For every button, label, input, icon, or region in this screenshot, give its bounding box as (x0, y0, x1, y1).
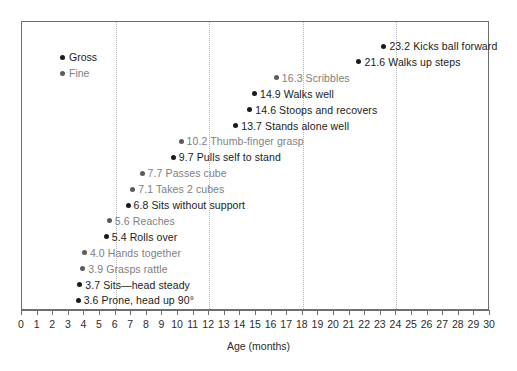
x-tick-0 (21, 310, 22, 315)
data-point-dot-icon (179, 139, 184, 144)
x-tick-5 (99, 310, 100, 315)
x-tick-26 (427, 310, 428, 315)
milestone-label: 5.6 Reaches (115, 214, 175, 228)
milestone-point: 4.0 Hands together (82, 246, 181, 260)
milestone-label: 3.6 Prone, head up 90° (84, 293, 194, 307)
milestone-label: 13.7 Stands alone well (241, 119, 349, 133)
milestone-label: 3.7 Sits—head steady (85, 278, 190, 292)
x-tick-label-29: 29 (468, 318, 480, 330)
milestone-point: 9.7 Pulls self to stand (171, 150, 281, 164)
milestone-point: 7.1 Takes 2 cubes (130, 182, 224, 196)
x-axis-title: Age (months) (0, 340, 517, 352)
milestone-label: 7.7 Passes cube (148, 166, 227, 180)
data-point-dot-icon (274, 75, 279, 80)
x-tick-label-30: 30 (483, 318, 495, 330)
legend-dot-icon (60, 55, 65, 60)
x-tick-label-4: 4 (80, 318, 86, 330)
milestone-label: 21.6 Walks up steps (364, 55, 460, 69)
milestone-label: 3.9 Grasps rattle (88, 262, 167, 276)
data-point-dot-icon (233, 123, 238, 128)
x-tick-20 (333, 310, 334, 315)
data-point-dot-icon (126, 203, 131, 208)
data-point-dot-icon (76, 298, 81, 303)
data-point-dot-icon (356, 59, 361, 64)
milestone-point: 14.6 Stoops and recovers (247, 103, 377, 117)
x-tick-8 (146, 310, 147, 315)
x-tick-30 (489, 310, 490, 315)
data-point-dot-icon (247, 107, 252, 112)
x-axis: 0123456789101112131415161718192021222324… (21, 310, 489, 311)
data-point-dot-icon (82, 250, 87, 255)
milestone-label: 7.1 Takes 2 cubes (138, 182, 224, 196)
data-point-dot-icon (130, 187, 135, 192)
milestone-label: 5.4 Rolls over (112, 230, 178, 244)
milestone-point: 6.8 Sits without support (126, 198, 246, 212)
x-tick-label-20: 20 (327, 318, 339, 330)
x-tick-4 (83, 310, 84, 315)
x-tick-label-13: 13 (218, 318, 230, 330)
x-tick-label-19: 19 (312, 318, 324, 330)
x-tick-25 (411, 310, 412, 315)
x-tick-label-6: 6 (112, 318, 118, 330)
x-tick-7 (130, 310, 131, 315)
x-tick-10 (177, 310, 178, 315)
milestone-point: 3.6 Prone, head up 90° (76, 293, 194, 307)
x-tick-24 (395, 310, 396, 315)
data-point-dot-icon (104, 234, 109, 239)
x-tick-label-8: 8 (143, 318, 149, 330)
x-tick-label-22: 22 (358, 318, 370, 330)
data-point-dot-icon (107, 218, 112, 223)
x-tick-18 (302, 310, 303, 315)
x-tick-label-23: 23 (374, 318, 386, 330)
x-tick-2 (52, 310, 53, 315)
milestone-point: 5.4 Rolls over (104, 230, 178, 244)
plot-area: GrossFine 23.2 Kicks ball forward21.6 Wa… (21, 21, 489, 310)
x-tick-3 (68, 310, 69, 315)
x-tick-19 (317, 310, 318, 315)
data-point-dot-icon (171, 155, 176, 160)
x-tick-16 (271, 310, 272, 315)
milestone-point: 3.7 Sits—head steady (77, 278, 190, 292)
x-tick-17 (286, 310, 287, 315)
x-tick-23 (380, 310, 381, 315)
milestone-label: 16.3 Scribbles (282, 71, 350, 85)
x-tick-label-3: 3 (65, 318, 71, 330)
milestone-label: 23.2 Kicks ball forward (389, 39, 497, 53)
legend-label: Fine (69, 67, 89, 79)
milestone-label: 14.9 Walks well (260, 87, 334, 101)
milestone-point: 7.7 Passes cube (140, 166, 227, 180)
gridline-18-months (303, 22, 304, 309)
x-tick-label-14: 14 (234, 318, 246, 330)
data-point-dot-icon (381, 44, 386, 49)
milestone-point: 13.7 Stands alone well (233, 119, 349, 133)
x-tick-29 (473, 310, 474, 315)
milestone-point: 5.6 Reaches (107, 214, 175, 228)
x-tick-label-18: 18 (296, 318, 308, 330)
legend-item-fine[interactable]: Fine (60, 65, 97, 81)
data-point-dot-icon (252, 91, 257, 96)
x-tick-label-11: 11 (187, 318, 198, 330)
data-point-dot-icon (80, 266, 85, 271)
x-tick-label-15: 15 (249, 318, 261, 330)
milestone-label: 6.8 Sits without support (134, 198, 246, 212)
milestone-point: 23.2 Kicks ball forward (381, 39, 497, 53)
x-tick-9 (161, 310, 162, 315)
x-tick-15 (255, 310, 256, 315)
x-tick-label-16: 16 (265, 318, 277, 330)
developmental-milestones-chart: GrossFine 23.2 Kicks ball forward21.6 Wa… (0, 0, 517, 371)
x-tick-label-17: 17 (280, 318, 292, 330)
x-tick-12 (208, 310, 209, 315)
x-tick-6 (115, 310, 116, 315)
x-tick-27 (442, 310, 443, 315)
x-tick-label-12: 12 (202, 318, 214, 330)
data-point-dot-icon (77, 282, 82, 287)
x-tick-label-25: 25 (405, 318, 417, 330)
x-tick-label-2: 2 (49, 318, 55, 330)
x-tick-21 (349, 310, 350, 315)
legend-item-gross[interactable]: Gross (60, 49, 97, 65)
chart-legend: GrossFine (60, 49, 97, 81)
x-tick-label-10: 10 (171, 318, 183, 330)
x-tick-label-1: 1 (34, 318, 40, 330)
legend-label: Gross (69, 51, 97, 63)
milestone-point: 3.9 Grasps rattle (80, 262, 167, 276)
